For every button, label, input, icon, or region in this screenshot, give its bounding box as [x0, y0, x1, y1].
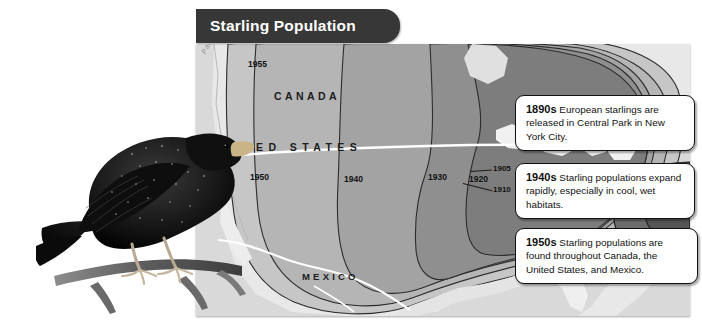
bird-eye-glint: [225, 145, 226, 146]
contour-label-1955: 1955: [248, 59, 267, 69]
starling-illustration: [36, 80, 256, 320]
region-label-mexico: MEXICO: [302, 271, 359, 282]
branch: [54, 259, 246, 314]
contour-label-1940: 1940: [344, 174, 363, 184]
fact-year-1890s: 1890s: [526, 103, 557, 115]
figure-title-banner: Starling Population: [196, 9, 400, 43]
contour-label-1920: 1920: [469, 174, 488, 184]
contour-label-1930: 1930: [428, 172, 447, 182]
fact-year-1950s: 1950s: [526, 236, 557, 248]
bird-eye: [224, 144, 228, 148]
fact-callout-1890s: 1890s European starlings are released in…: [515, 95, 695, 151]
fact-callout-1950s: 1950s Starling populations are found thr…: [515, 228, 698, 284]
region-label-canada: CANADA: [274, 90, 340, 102]
figure-title: Starling Population: [196, 17, 356, 35]
contour-label-1910: 1910: [493, 185, 511, 194]
figure-canvas: Pacific Ocean CANADA UNITED STATES MEXIC…: [0, 0, 702, 336]
fact-callout-1940s: 1940s Starling populations expand rapidl…: [515, 163, 695, 219]
bird-beak: [231, 141, 255, 156]
contour-label-1905: 1905: [493, 164, 511, 173]
fact-year-1940s: 1940s: [526, 171, 557, 183]
